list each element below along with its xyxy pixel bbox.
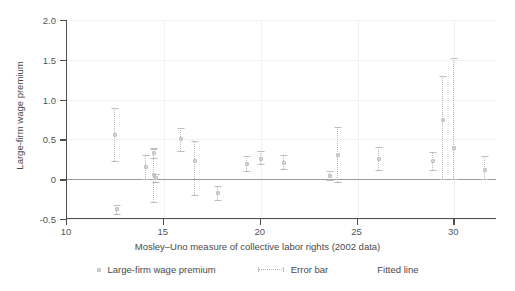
chart-legend: Large-firm wage premium Error bar Fitted… <box>0 264 515 275</box>
error-bar-cap-lower <box>327 180 334 181</box>
x-axis-tick-label: 15 <box>158 226 169 237</box>
error-bar-cap-upper <box>280 155 287 156</box>
legend-label-errorbar: Error bar <box>291 264 328 275</box>
data-point-marker[interactable] <box>179 137 183 141</box>
data-point-marker[interactable] <box>259 157 263 161</box>
error-bar-cap-upper <box>114 205 121 206</box>
error-bar-cap-upper <box>191 141 198 142</box>
error-bar-cap-upper <box>335 127 342 128</box>
chart-figure: -0.500.51.01.52.0 1015202530 Large-firm … <box>0 0 515 291</box>
error-bar-cap-upper <box>215 186 222 187</box>
x-axis-tick <box>66 219 67 225</box>
error-bar-cap-lower <box>151 202 158 203</box>
y-axis-tick <box>60 179 66 180</box>
y-axis-label: Large-firm wage premium <box>14 11 25 221</box>
error-bar-cap-upper <box>327 171 334 172</box>
error-bar-cap-lower <box>375 170 382 171</box>
error-bar-cap-lower <box>280 169 287 170</box>
error-bar-cap-lower <box>215 200 222 201</box>
error-bar-cap-lower <box>151 158 158 159</box>
y-axis-tick-label: 1.5 <box>43 54 56 65</box>
x-axis-tick <box>163 219 164 225</box>
y-axis-tick-label: 2.0 <box>43 15 56 26</box>
plot-area <box>66 20 496 219</box>
error-bar-cap-lower <box>244 171 251 172</box>
data-point-marker[interactable] <box>245 162 249 166</box>
data-point-marker[interactable] <box>282 161 286 165</box>
error-bar-cap-upper <box>257 151 264 152</box>
error-bar-cap-lower <box>430 170 437 171</box>
y-axis-tick <box>60 20 66 21</box>
y-axis-tick <box>60 60 66 61</box>
error-bar-cap-upper <box>143 155 150 156</box>
error-bar <box>442 76 444 179</box>
data-point-marker[interactable] <box>152 151 156 155</box>
error-bar-cap-lower <box>178 151 185 152</box>
fitted-line <box>67 179 496 180</box>
legend-item-fitted-line[interactable]: Fitted line <box>370 264 418 275</box>
data-point-marker[interactable] <box>113 133 117 137</box>
error-bar-cap-upper <box>375 147 382 148</box>
data-point-marker[interactable] <box>431 159 435 163</box>
data-point-marker[interactable] <box>216 191 220 195</box>
x-axis-tick-label: 20 <box>254 226 265 237</box>
error-bar <box>453 58 455 179</box>
error-bar-cap-upper <box>244 156 251 157</box>
gridline-vertical <box>358 20 359 218</box>
legend-item-points[interactable]: Large-firm wage premium <box>97 264 216 275</box>
legend-item-errorbar[interactable]: Error bar <box>258 264 328 275</box>
legend-label-fitted-line: Fitted line <box>377 264 418 275</box>
error-bar-cap-upper <box>153 174 160 175</box>
x-axis-tick-label: 10 <box>61 226 72 237</box>
error-bar-cap-lower <box>153 182 160 183</box>
x-axis-label: Mosley–Uno measure of collective labor r… <box>0 241 515 252</box>
error-bar-cap-upper <box>451 58 458 59</box>
gridline-horizontal <box>67 139 496 140</box>
y-axis-tick-label: 0.5 <box>43 134 56 145</box>
error-bar-cap-lower <box>451 179 458 180</box>
error-bar-cap-lower <box>114 214 121 215</box>
x-axis-tick-label: 30 <box>448 226 459 237</box>
error-bar-icon <box>258 267 284 272</box>
data-point-marker[interactable] <box>328 174 332 178</box>
y-axis-tick <box>60 139 66 140</box>
error-bar-cap-lower <box>335 182 342 183</box>
error-bar-cap-upper <box>430 152 437 153</box>
error-bar-cap-upper <box>112 108 119 109</box>
square-marker-icon <box>97 268 101 272</box>
data-point-marker[interactable] <box>483 168 487 172</box>
gridline-horizontal <box>67 100 496 101</box>
x-axis-tick <box>453 219 454 225</box>
data-point-marker[interactable] <box>193 159 197 163</box>
error-bar-cap-lower <box>143 179 150 180</box>
error-bar-cap-upper <box>439 76 446 77</box>
data-point-marker[interactable] <box>115 207 119 211</box>
data-point-marker[interactable] <box>154 176 158 180</box>
error-bar-cap-upper <box>178 128 185 129</box>
data-point-marker[interactable] <box>441 118 445 122</box>
data-point-marker[interactable] <box>377 157 381 161</box>
error-bar-cap-lower <box>257 164 264 165</box>
y-axis-tick <box>60 100 66 101</box>
x-axis-tick <box>357 219 358 225</box>
error-bar <box>194 141 196 195</box>
error-bar-cap-lower <box>482 179 489 180</box>
gridline-horizontal <box>67 20 496 21</box>
data-point-marker[interactable] <box>452 146 456 150</box>
error-bar-cap-upper <box>482 156 489 157</box>
y-axis-tick-label: -0.5 <box>40 214 56 225</box>
y-axis-tick-label: 0 <box>51 174 56 185</box>
gridline-horizontal <box>67 219 496 220</box>
y-axis-tick-label: 1.0 <box>43 94 56 105</box>
gridline-vertical <box>164 20 165 218</box>
error-bar-cap-lower <box>191 195 198 196</box>
x-axis-tick-label: 25 <box>351 226 362 237</box>
error-bar-cap-upper <box>151 148 158 149</box>
x-axis-tick <box>260 219 261 225</box>
error-bar-cap-lower <box>112 161 119 162</box>
gridline-vertical <box>261 20 262 218</box>
data-point-marker[interactable] <box>336 153 340 157</box>
legend-label-points: Large-firm wage premium <box>108 264 216 275</box>
data-point-marker[interactable] <box>144 165 148 169</box>
gridline-horizontal <box>67 60 496 61</box>
